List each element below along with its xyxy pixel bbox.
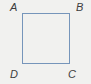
vertex-label-a: A <box>10 1 17 13</box>
vertex-label-c: C <box>68 68 76 80</box>
vertex-label-d: D <box>10 68 18 80</box>
geometry-figure: A B C D <box>0 0 91 84</box>
square-outline <box>22 13 70 64</box>
vertex-label-b: B <box>76 1 83 13</box>
